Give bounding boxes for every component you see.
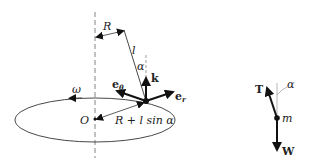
- pendulum-bob: [143, 98, 149, 104]
- l-label: l: [132, 44, 136, 57]
- omega-label: ω: [72, 83, 81, 96]
- free-body-diagram: α T W m: [255, 78, 295, 158]
- O-label: O: [80, 114, 89, 127]
- k-label: k: [151, 72, 159, 85]
- W-label: W: [281, 145, 295, 158]
- tension-vector: [267, 88, 277, 118]
- R-label: R: [102, 20, 111, 33]
- e-r-vector: [146, 92, 173, 101]
- e-r-label: er: [175, 90, 187, 104]
- origin-point: [94, 118, 97, 121]
- pendulum-diagram: ω R l α R + l sin α O k eθ er α T W: [0, 0, 315, 165]
- mass-point: [274, 115, 280, 121]
- m-label: m: [282, 112, 292, 125]
- alpha-label: α: [137, 60, 145, 73]
- fbd-alpha-label: α: [287, 78, 295, 91]
- e-theta-label: eθ: [112, 78, 124, 92]
- alpha-arc: [277, 87, 287, 95]
- rotating-pendulum-figure: ω R l α R + l sin α O k eθ er: [15, 12, 187, 158]
- radius-label: R + l sin α: [114, 114, 174, 127]
- T-label: T: [255, 83, 264, 96]
